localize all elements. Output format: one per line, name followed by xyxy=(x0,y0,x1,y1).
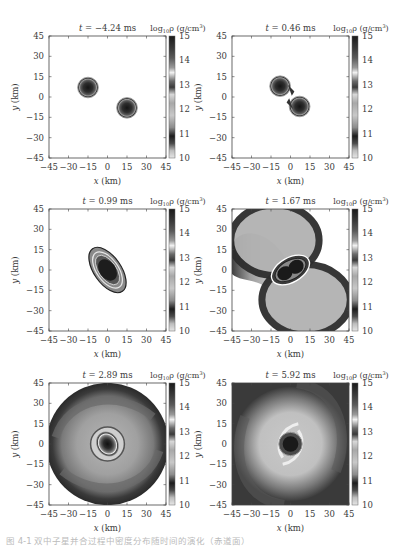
density-blob-star-2 xyxy=(117,98,138,119)
plot-area xyxy=(232,36,349,158)
x-tick-label: 15 xyxy=(305,509,316,519)
density-blob-star-2 xyxy=(289,96,310,117)
x-tick-label: 30 xyxy=(324,335,335,345)
y-tick-label: 45 xyxy=(33,31,44,41)
plot-area xyxy=(228,205,350,335)
y-tick-label: −45 xyxy=(209,153,227,163)
y-tick-label: 30 xyxy=(33,398,44,408)
colorbar-tick-label: 14 xyxy=(362,228,373,238)
y-tick-label: −45 xyxy=(209,500,227,510)
y-tick-label: 45 xyxy=(33,378,44,388)
x-tick-label: −45 xyxy=(40,335,58,345)
y-tick-label: −15 xyxy=(209,285,227,295)
x-tick-label: 30 xyxy=(324,509,335,519)
x-tick-label: 15 xyxy=(122,509,133,519)
empty-region xyxy=(323,209,349,243)
x-tick-label: 15 xyxy=(305,335,316,345)
x-axis-label: x (km) xyxy=(94,176,121,186)
colorbar xyxy=(169,209,175,331)
x-tick-label: 15 xyxy=(122,335,133,345)
colorbar-label: log10ρ (g/cm3) xyxy=(150,196,205,207)
colorbar-tick-label: 12 xyxy=(179,104,190,114)
x-tick-label: 45 xyxy=(344,509,355,519)
panel-6: −45−30−150153045−45−30−150153045x (km)y … xyxy=(193,370,389,533)
x-tick-label: 0 xyxy=(288,509,293,519)
y-tick-label: −30 xyxy=(26,133,44,143)
x-tick-label: 0 xyxy=(288,162,293,172)
figure: −45−30−150153045−45−30−150153045x (km)y … xyxy=(0,0,406,547)
y-tick-label: 45 xyxy=(216,31,227,41)
empty-region xyxy=(232,297,258,331)
y-axis-label: y (km) xyxy=(193,83,203,111)
y-tick-label: 15 xyxy=(33,419,44,429)
colorbar-tick-label: 10 xyxy=(362,153,373,163)
plot-area xyxy=(232,383,349,505)
plot-background xyxy=(49,36,166,158)
panel-5: −45−30−150153045−45−30−150153045x (km)y … xyxy=(10,370,206,533)
y-tick-label: 30 xyxy=(216,224,227,234)
colorbar-tick-label: 12 xyxy=(362,104,373,114)
y-tick-label: 0 xyxy=(39,439,44,449)
colorbar-label: log10ρ (g/cm3) xyxy=(150,23,205,34)
x-tick-label: −30 xyxy=(60,162,78,172)
x-axis-label: x (km) xyxy=(277,349,304,359)
colorbar-tick-label: 14 xyxy=(362,55,373,65)
panel-title: t = 0.46 ms xyxy=(266,23,316,33)
x-tick-label: 0 xyxy=(288,335,293,345)
density-core xyxy=(283,436,299,452)
x-tick-label: −30 xyxy=(243,162,261,172)
x-tick-label: −45 xyxy=(223,335,241,345)
x-tick-label: −45 xyxy=(40,509,58,519)
panel-4: −45−30−150153045−45−30−150153045x (km)y … xyxy=(193,196,389,359)
y-tick-label: 45 xyxy=(216,378,227,388)
y-tick-label: 15 xyxy=(216,419,227,429)
colorbar-tick-label: 10 xyxy=(179,153,190,163)
y-axis-label: y (km) xyxy=(10,83,20,111)
x-tick-label: −45 xyxy=(40,162,58,172)
colorbar-tick-label: 14 xyxy=(179,402,190,412)
x-tick-label: −15 xyxy=(262,509,280,519)
colorbar-tick-label: 13 xyxy=(179,80,190,90)
y-tick-label: 45 xyxy=(216,204,227,214)
y-tick-label: −45 xyxy=(26,500,44,510)
panel-2: −45−30−150153045−45−30−150153045x (km)y … xyxy=(193,23,389,186)
x-axis-label: x (km) xyxy=(94,523,121,533)
y-tick-label: −45 xyxy=(209,326,227,336)
x-tick-label: −15 xyxy=(79,335,97,345)
x-tick-label: −15 xyxy=(262,335,280,345)
x-tick-label: −30 xyxy=(243,509,261,519)
y-axis-label: y (km) xyxy=(193,430,203,458)
y-tick-label: 15 xyxy=(216,245,227,255)
x-axis-label: x (km) xyxy=(94,349,121,359)
x-tick-label: 30 xyxy=(324,162,335,172)
y-tick-label: −30 xyxy=(209,480,227,490)
y-tick-label: −15 xyxy=(26,459,44,469)
colorbar-tick-label: 11 xyxy=(362,476,373,486)
colorbar-tick-label: 11 xyxy=(362,302,373,312)
y-tick-label: −15 xyxy=(209,459,227,469)
y-tick-label: 15 xyxy=(216,72,227,82)
y-tick-label: 30 xyxy=(33,224,44,234)
colorbar-label: log10ρ (g/cm3) xyxy=(333,196,388,207)
y-axis-label: y (km) xyxy=(10,430,20,458)
x-tick-label: −15 xyxy=(262,162,280,172)
y-tick-label: 0 xyxy=(222,92,227,102)
colorbar-tick-label: 11 xyxy=(179,129,190,139)
x-tick-label: 45 xyxy=(161,335,172,345)
y-tick-label: −30 xyxy=(26,480,44,490)
plot-area xyxy=(49,209,166,331)
colorbar xyxy=(169,36,175,158)
x-axis-label: x (km) xyxy=(277,523,304,533)
y-tick-label: −30 xyxy=(26,306,44,316)
panel-3: −45−30−150153045−45−30−150153045x (km)y … xyxy=(10,196,206,359)
y-tick-label: −30 xyxy=(209,306,227,316)
colorbar-tick-label: 11 xyxy=(179,302,190,312)
x-tick-label: 30 xyxy=(141,335,152,345)
x-tick-label: 30 xyxy=(141,509,152,519)
plot-area xyxy=(49,36,166,158)
x-tick-label: 15 xyxy=(305,162,316,172)
colorbar-tick-label: 10 xyxy=(362,500,373,510)
colorbar-tick-label: 10 xyxy=(179,326,190,336)
colorbar-tick-label: 13 xyxy=(179,427,190,437)
plot-area xyxy=(46,383,168,505)
